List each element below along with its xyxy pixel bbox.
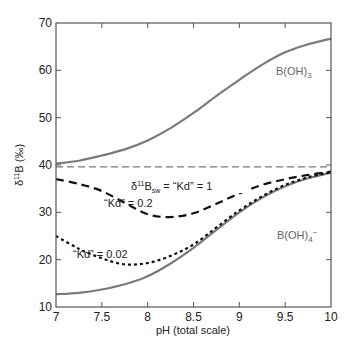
label-boh4: B(OH)4− [277, 228, 318, 244]
label-kd-0-02: “Kd” = 0.02 [73, 248, 128, 260]
x-tick-label: 7.5 [93, 310, 110, 324]
x-tick-label: 10 [324, 310, 338, 324]
y-tick-label: 70 [39, 16, 53, 30]
x-tick-label: 7 [53, 310, 60, 324]
y-tick-label: 60 [39, 63, 53, 77]
series-line-2 [56, 172, 331, 217]
x-tick-label: 9 [236, 310, 243, 324]
series-line-0 [56, 39, 331, 164]
y-axis-title: δ11B (‰) [13, 144, 25, 186]
y-tick-label: 20 [39, 253, 53, 267]
y-tick-label: 30 [39, 205, 53, 219]
chart: 77.588.599.51010203040506070 pH (total s… [0, 0, 354, 358]
y-tick-label: 40 [39, 158, 53, 172]
y-tick-label: 50 [39, 111, 53, 125]
axis-ticks: 77.588.599.51010203040506070 [39, 16, 338, 324]
x-tick-label: 8.5 [185, 310, 202, 324]
x-axis-title: pH (total scale) [156, 324, 230, 336]
label-boh3: B(OH)3 [276, 65, 312, 80]
x-tick-label: 9.5 [277, 310, 294, 324]
x-tick-label: 8 [144, 310, 151, 324]
label-kd-0-2: “Kd” = 0.2 [104, 197, 153, 209]
y-tick-label: 10 [39, 300, 53, 314]
